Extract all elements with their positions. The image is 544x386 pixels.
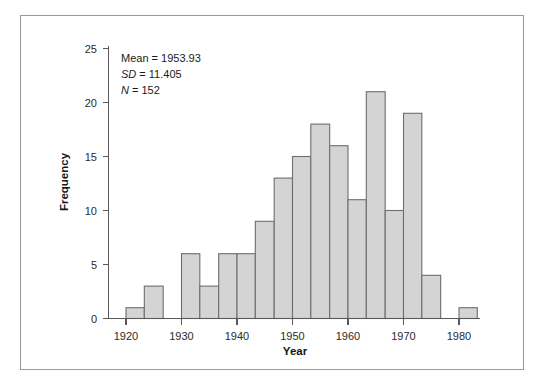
figure-frame	[20, 15, 524, 370]
histogram-figure: 0510152025 1920193019401950196019701980 …	[0, 0, 544, 386]
